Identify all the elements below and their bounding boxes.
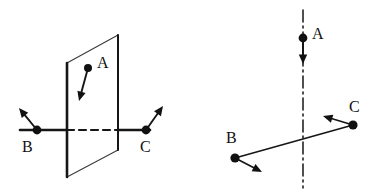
right-panel: A B C: [226, 10, 360, 188]
point-a-force-arrow-shaft: [81, 68, 88, 94]
diagram-canvas: A B C A B: [0, 0, 377, 196]
point-c-label: C: [140, 138, 151, 155]
figure-root: A B C A B: [0, 0, 377, 196]
point-b-dot: [33, 126, 42, 135]
point-a-label: A: [312, 25, 324, 42]
point-c-dot: [348, 120, 357, 129]
point-a-label: A: [97, 54, 109, 71]
point-b-dot: [230, 153, 239, 162]
point-a-dot: [299, 34, 308, 43]
inclined-plane-parallelogram: [67, 35, 118, 177]
point-c-dot: [142, 126, 151, 135]
point-c-force-arrow-head: [323, 115, 333, 123]
slanted-connector-line: [235, 125, 353, 158]
point-c-force-arrow-head: [154, 106, 163, 116]
point-b-label: B: [22, 138, 33, 155]
point-a-force-arrow-head: [299, 55, 307, 65]
point-a-force-arrow-head: [77, 91, 85, 101]
left-panel: A B C: [19, 35, 163, 177]
point-b-label: B: [226, 129, 237, 146]
point-a-dot: [84, 64, 92, 72]
point-c-label: C: [349, 98, 360, 115]
